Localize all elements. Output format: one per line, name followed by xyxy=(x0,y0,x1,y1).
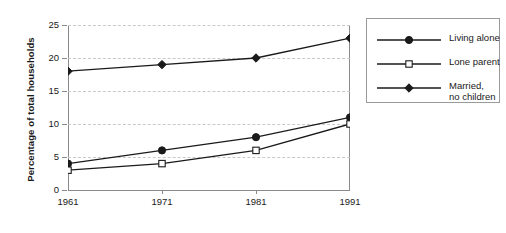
legend-label: Married,no children xyxy=(449,80,495,102)
series-line xyxy=(68,38,350,71)
legend-item[interactable]: Living alone xyxy=(375,33,495,47)
chart-legend: Living aloneLone parentMarried,no childr… xyxy=(366,18,500,103)
series-line xyxy=(68,124,350,170)
legend-label: Lone parent xyxy=(449,56,500,67)
legend-marker-filleddiamond-icon xyxy=(375,81,443,95)
x-tick xyxy=(162,190,163,194)
y-tick xyxy=(62,25,67,26)
data-point-filled-diamond xyxy=(252,54,260,62)
y-tick xyxy=(62,190,67,191)
data-point-filled-circle xyxy=(158,147,165,154)
x-tick-label: 1981 xyxy=(245,197,266,207)
y-tick xyxy=(62,157,67,158)
data-point-filled-circle xyxy=(68,160,72,167)
plot-area: 0510152025 1961197119811991 xyxy=(68,25,350,190)
y-tick xyxy=(62,124,67,125)
data-point-open-square xyxy=(406,61,412,67)
x-tick-label: 1961 xyxy=(57,197,78,207)
legend-item[interactable]: Lone parent xyxy=(375,57,495,71)
data-series-layer xyxy=(68,25,350,190)
data-point-open-square xyxy=(347,121,350,127)
y-tick-label: 20 xyxy=(48,53,59,63)
x-tick-label: 1971 xyxy=(151,197,172,207)
data-point-open-square xyxy=(253,147,259,153)
x-axis-line xyxy=(68,190,350,191)
y-axis-title: Percentage of total households xyxy=(25,20,36,200)
legend-label: Living alone xyxy=(449,32,500,43)
x-tick xyxy=(256,190,257,194)
data-point-open-square xyxy=(159,160,165,166)
y-tick-label: 15 xyxy=(48,86,59,96)
data-point-filled-diamond xyxy=(405,84,413,92)
legend-item[interactable]: Married,no children xyxy=(375,81,495,95)
y-tick-label: 5 xyxy=(54,152,59,162)
y-tick-label: 10 xyxy=(48,119,59,129)
y-tick-label: 0 xyxy=(54,185,59,195)
data-point-filled-diamond xyxy=(158,60,166,68)
x-tick-label: 1991 xyxy=(339,197,360,207)
y-tick xyxy=(62,91,67,92)
data-point-open-square xyxy=(68,167,71,173)
legend-marker-filledcircle-icon xyxy=(375,33,443,47)
legend-marker-opensquare-icon xyxy=(375,57,443,71)
y-tick xyxy=(62,58,67,59)
data-point-filled-circle xyxy=(252,134,259,141)
data-point-filled-diamond xyxy=(68,67,72,75)
y-tick-label: 25 xyxy=(48,20,59,30)
data-point-filled-circle xyxy=(346,114,350,121)
chart-figure: Percentage of total households 051015202… xyxy=(0,0,506,233)
data-point-filled-diamond xyxy=(346,34,350,42)
data-point-filled-circle xyxy=(405,36,412,43)
